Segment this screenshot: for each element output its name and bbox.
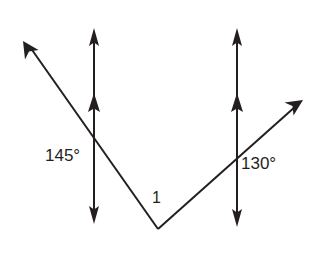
left-parallel-line [88,28,100,224]
geometry-diagram: 145° 130° 1 [0,0,324,253]
geometry-canvas [0,0,324,253]
left-angle-label: 145° [45,147,80,164]
right-parallel-line [231,28,243,227]
v-shaped-transversal [23,41,303,229]
vertex-angle-label: 1 [152,190,161,206]
right-angle-label: 130° [241,155,276,172]
